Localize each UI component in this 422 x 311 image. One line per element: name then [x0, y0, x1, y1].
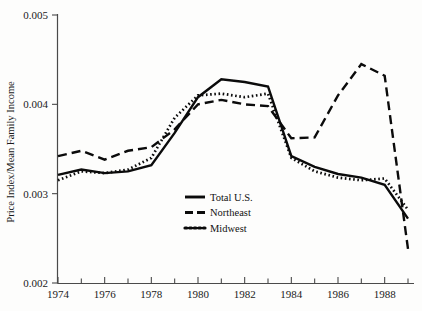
series-line-northeast [58, 64, 408, 249]
x-tick-label: 1980 [187, 288, 210, 300]
y-tick-label: 0.005 [23, 9, 48, 21]
legend-label: Total U.S. [210, 192, 253, 203]
line-chart: Price Index/Mean Family Income 0.0020.00… [0, 0, 422, 311]
data-series-group [58, 64, 408, 249]
y-tick-label: 0.004 [23, 98, 48, 110]
y-tick-label: 0.003 [23, 188, 48, 200]
legend-label: Northeast [210, 207, 251, 218]
x-tick-label: 1984 [280, 288, 303, 300]
y-tick-label: 0.002 [23, 277, 48, 289]
x-tick-label: 1986 [327, 288, 350, 300]
x-axis-ticks: 19741976197819801982198419861988 [47, 277, 408, 300]
x-tick-label: 1978 [140, 288, 163, 300]
y-axis-label: Price Index/Mean Family Income [5, 81, 16, 223]
x-tick-label: 1974 [47, 288, 70, 300]
x-tick-label: 1982 [234, 288, 256, 300]
x-tick-label: 1976 [94, 288, 117, 300]
legend-label: Midwest [210, 223, 247, 234]
x-tick-label: 1988 [374, 288, 397, 300]
y-axis-ticks: 0.0020.0030.0040.005 [23, 9, 57, 289]
chart-figure: Price Index/Mean Family Income 0.0020.00… [0, 0, 422, 311]
chart-legend: Total U.S.NortheastMidwest [185, 192, 253, 234]
